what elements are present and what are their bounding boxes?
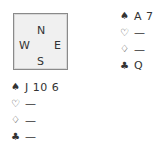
west-hearts-cards: —	[25, 97, 37, 110]
spade-icon: ♠	[120, 11, 134, 21]
north-clubs-cards: Q	[134, 59, 143, 72]
west-clubs-cards: —	[25, 130, 37, 143]
west-diamonds-row: ♢ —	[11, 112, 59, 129]
north-hearts-cards: —	[134, 26, 146, 39]
compass-north: N	[37, 25, 45, 36]
north-hand: ♠ A 7 ♡ — ♢ — ♣ Q	[120, 8, 154, 74]
west-diamonds-cards: —	[25, 114, 37, 127]
west-hearts-row: ♡ —	[11, 96, 59, 113]
north-spades-row: ♠ A 7	[120, 8, 154, 25]
club-icon: ♣	[11, 132, 25, 142]
north-diamonds-row: ♢ —	[120, 41, 154, 58]
compass-east: E	[54, 40, 61, 51]
heart-icon: ♡	[120, 28, 134, 38]
diamond-icon: ♢	[11, 115, 25, 125]
compass-west: W	[19, 40, 30, 51]
north-clubs-row: ♣ Q	[120, 58, 154, 75]
west-clubs-row: ♣ —	[11, 129, 59, 146]
heart-icon: ♡	[11, 99, 25, 109]
north-hearts-row: ♡ —	[120, 25, 154, 42]
compass-south: S	[37, 56, 44, 67]
north-spades-cards: A 7	[134, 10, 154, 23]
west-hand: ♠ J 10 6 ♡ — ♢ — ♣ —	[11, 79, 59, 145]
west-spades-row: ♠ J 10 6	[11, 79, 59, 96]
diamond-icon: ♢	[120, 44, 134, 54]
spade-icon: ♠	[11, 82, 25, 92]
west-spades-cards: J 10 6	[25, 81, 59, 94]
north-diamonds-cards: —	[134, 43, 146, 56]
club-icon: ♣	[120, 61, 134, 71]
compass-box: N W E S	[13, 13, 68, 70]
